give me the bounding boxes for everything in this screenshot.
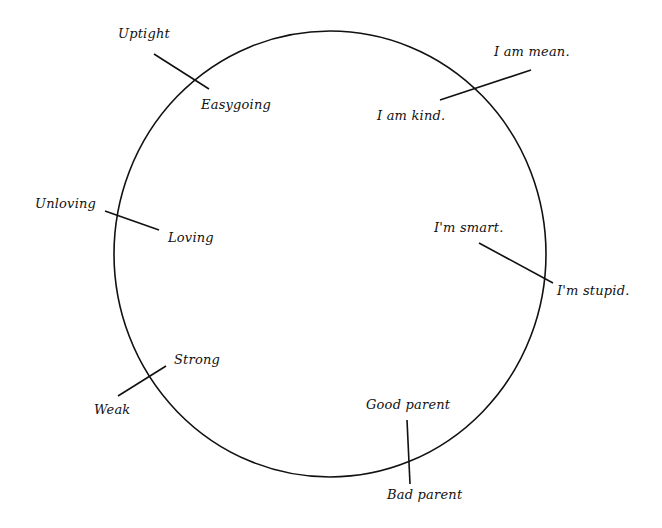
label-weak: Weak bbox=[94, 402, 130, 417]
line-smart-stupid bbox=[479, 243, 553, 283]
label-loving: Loving bbox=[168, 230, 214, 245]
label-good-parent: Good parent bbox=[366, 397, 450, 412]
line-mean-kind bbox=[440, 70, 531, 100]
label-bad-parent: Bad parent bbox=[387, 487, 462, 502]
label-unloving: Unloving bbox=[35, 196, 96, 211]
label-uptight: Uptight bbox=[118, 26, 170, 41]
diagram-canvas bbox=[0, 0, 662, 528]
label-mean: I am mean. bbox=[494, 44, 570, 59]
self-circle bbox=[114, 31, 546, 477]
label-kind: I am kind. bbox=[377, 108, 445, 123]
line-weak-strong bbox=[118, 366, 166, 396]
label-stupid: I'm stupid. bbox=[557, 283, 630, 298]
line-good-bad-parent bbox=[407, 420, 410, 484]
line-uptight-easygoing bbox=[154, 54, 209, 89]
label-easygoing: Easygoing bbox=[201, 97, 271, 112]
line-unloving-loving bbox=[105, 211, 159, 230]
label-smart: I'm smart. bbox=[434, 220, 504, 235]
label-strong: Strong bbox=[174, 352, 220, 367]
